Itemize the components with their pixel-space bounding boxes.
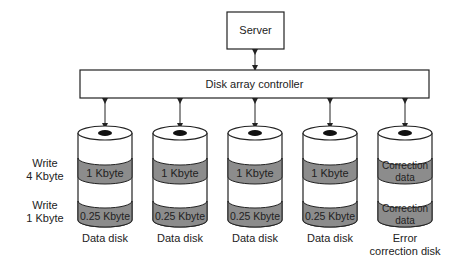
disk5-band2: Correction data <box>376 203 434 227</box>
disk5-band1: Correction data <box>376 160 434 184</box>
disk3-band1: 1 Kbyte <box>228 167 282 180</box>
disk4-band1: 1 Kbyte <box>303 167 357 180</box>
controller-label: Disk array controller <box>80 78 429 91</box>
disk1-band2: 0.25 Kbyte <box>76 210 134 223</box>
row-label-write-4k: Write 4 Kbyte <box>20 157 70 183</box>
disk3-caption: Data disk <box>220 232 290 245</box>
disk2-band1: 1 Kbyte <box>153 167 207 180</box>
disk1-caption: Data disk <box>70 232 140 245</box>
disk4-caption: Data disk <box>295 232 365 245</box>
disk2-band2: 0.25 Kbyte <box>151 210 209 223</box>
disk5-caption: Error correction disk <box>360 232 450 258</box>
disk2-caption: Data disk <box>145 232 215 245</box>
disk1-band1: 1 Kbyte <box>78 167 132 180</box>
row-label-write-1k: Write 1 Kbyte <box>20 199 70 225</box>
disk3-band2: 0.25 Kbyte <box>226 210 284 223</box>
disk4-band2: 0.25 Kbyte <box>301 210 359 223</box>
disk-arrows <box>105 101 405 126</box>
server-label: Server <box>227 24 284 37</box>
